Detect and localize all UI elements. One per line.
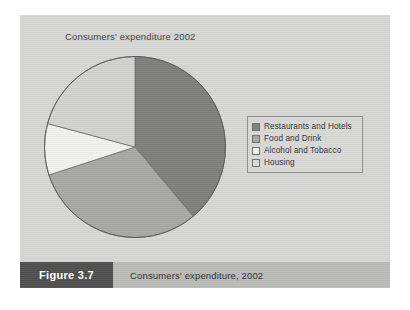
- page-root: Consumers' expenditure 2002 Restaurants …: [0, 0, 410, 310]
- legend-item-restaurants-and-hotels[interactable]: Restaurants and Hotels: [252, 121, 357, 132]
- pie-chart-svg: [44, 56, 226, 238]
- legend-label-alcohol-and-tobacco: Alcohol and Tobacco: [264, 146, 341, 156]
- legend-swatch-housing: [252, 159, 260, 167]
- figure-caption-text: Consumers' expenditure, 2002: [130, 262, 263, 288]
- legend-label-restaurants-and-hotels: Restaurants and Hotels: [264, 122, 352, 132]
- legend-swatch-restaurants-and-hotels: [252, 123, 260, 131]
- legend-swatch-alcohol-and-tobacco: [252, 147, 260, 155]
- legend-item-food-and-drink[interactable]: Food and Drink: [252, 133, 357, 144]
- legend-swatch-food-and-drink: [252, 135, 260, 143]
- chart-legend: Restaurants and Hotels Food and Drink Al…: [247, 116, 363, 173]
- figure-caption-bar: Figure 3.7 Consumers' expenditure, 2002: [20, 262, 390, 288]
- figure-number-box: Figure 3.7: [20, 262, 113, 288]
- figure-number-label: Figure 3.7: [39, 269, 94, 281]
- chart-title: Consumers' expenditure 2002: [65, 31, 196, 42]
- legend-item-alcohol-and-tobacco[interactable]: Alcohol and Tobacco: [252, 145, 357, 156]
- legend-label-housing: Housing: [264, 158, 295, 168]
- pie-slice-group: [44, 56, 225, 237]
- pie-chart: [44, 56, 226, 238]
- legend-item-housing[interactable]: Housing: [252, 157, 357, 168]
- legend-label-food-and-drink: Food and Drink: [264, 134, 321, 144]
- figure-card: Consumers' expenditure 2002 Restaurants …: [20, 15, 390, 288]
